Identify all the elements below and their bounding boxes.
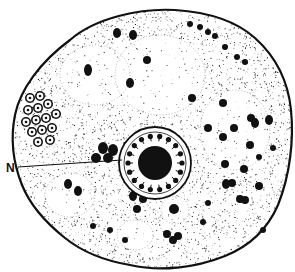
cell-illustration [0, 0, 295, 272]
nucleus-label: N [6, 162, 15, 174]
ring-granules [22, 92, 60, 146]
cell-figure: N [0, 0, 295, 272]
nucleus [119, 127, 191, 199]
